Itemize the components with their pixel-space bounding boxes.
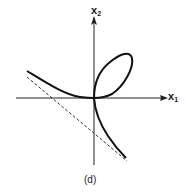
x2-axis-label: x2 [91, 4, 101, 17]
curve-lower-branch [94, 98, 126, 158]
curve-left-branch [27, 71, 94, 98]
figure-caption: (d) [84, 174, 96, 185]
x1-axis-label: x1 [168, 90, 178, 103]
asymptote-line [27, 77, 127, 161]
curve-loop [94, 54, 132, 98]
x1-axis-arrow-icon [160, 95, 168, 101]
diagram-canvas [0, 0, 186, 196]
